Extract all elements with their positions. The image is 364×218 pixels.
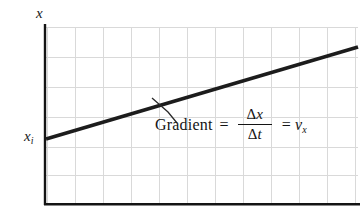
fraction-numerator: Δx	[242, 106, 267, 123]
delta-fraction: Δx Δt	[238, 106, 272, 142]
y-intercept-label: xi	[24, 129, 33, 146]
gradient-graph-figure: x xi Gradient = Δx Δt = vx	[0, 0, 364, 218]
y-axis-label: x	[36, 6, 43, 21]
denominator-variable: t	[258, 126, 262, 142]
fraction-bar	[238, 124, 272, 125]
numerator-variable: x	[256, 106, 263, 122]
velocity-subscript: x	[302, 124, 307, 135]
equals-sign-1: =	[220, 116, 229, 134]
delta-symbol-denominator: Δ	[248, 126, 258, 142]
velocity-symbol: vx	[295, 116, 307, 135]
delta-symbol-numerator: Δ	[246, 106, 256, 122]
y-intercept-subscript: i	[31, 135, 34, 146]
fraction-denominator: Δt	[244, 126, 266, 143]
gradient-equation: Gradient = Δx Δt = vx	[155, 107, 307, 143]
grid-horizontal-lines	[45, 28, 358, 176]
gradient-word: Gradient	[155, 116, 213, 134]
equals-sign-2: =	[282, 116, 291, 134]
